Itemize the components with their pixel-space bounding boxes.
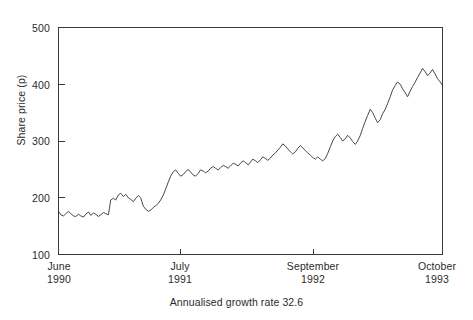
x-tick-month: September xyxy=(253,260,373,273)
x-tick-year: 1991 xyxy=(120,273,240,286)
x-tick-year: 1990 xyxy=(0,273,119,286)
share-price-line xyxy=(59,68,443,217)
x-tick-label-june-1990: June 1990 xyxy=(0,260,119,286)
x-tick-year: 1992 xyxy=(253,273,373,286)
x-tick-month: June xyxy=(0,260,119,273)
plot-frame xyxy=(59,28,443,255)
x-axis-ticks xyxy=(59,249,443,255)
chart-figure: Share price (p) 500 400 300 200 100 June… xyxy=(0,0,473,320)
y-axis-ticks xyxy=(59,28,65,255)
x-tick-label-july-1991: July 1991 xyxy=(120,260,240,286)
x-tick-month: October xyxy=(377,260,473,273)
x-tick-label-october-1993: October 1993 xyxy=(377,260,473,286)
x-tick-month: July xyxy=(120,260,240,273)
x-tick-label-september-1992: September 1992 xyxy=(253,260,373,286)
x-tick-year: 1993 xyxy=(377,273,473,286)
chart-caption: Annualised growth rate 32.6 xyxy=(0,296,473,308)
